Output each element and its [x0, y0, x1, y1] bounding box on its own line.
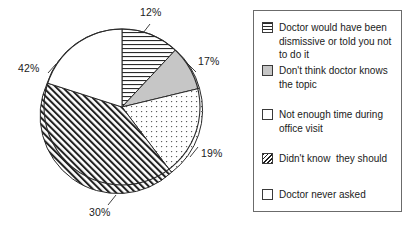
pie-label-19-percent: 19% — [201, 147, 223, 159]
plain-white-swatch-icon — [262, 189, 273, 200]
pie-label-17-percent: 17% — [198, 55, 220, 67]
pie-chart-screenshot: 12% 17% 19% 30% 42% Doctor would have be… — [0, 0, 410, 226]
pie-chart-area: 12% 17% 19% 30% 42% — [0, 0, 250, 226]
legend-item-doctor-knows-topic: Don't think doctor knows the topic — [262, 64, 401, 91]
pie-label-42-percent: 42% — [18, 62, 40, 74]
legend-item-label: Not enough time during office visit — [279, 108, 401, 135]
legend-item-never-asked: Doctor never asked — [262, 188, 401, 202]
dotted-swatch-icon — [262, 109, 273, 120]
legend-item-not-enough-time: Not enough time during office visit — [262, 108, 401, 135]
legend-item-didnt-know: Didn't know they should — [262, 152, 401, 166]
legend-item-label: Don't think doctor knows the topic — [279, 64, 401, 91]
pie-chart-svg — [0, 0, 250, 226]
chart-legend: Doctor would have been dismissive or tol… — [253, 10, 402, 212]
legend-item-label: Doctor would have been dismissive or tol… — [279, 21, 401, 62]
pie-label-30-percent: 30% — [89, 206, 111, 218]
solid-gray-swatch-icon — [262, 65, 273, 76]
diagonal-hatch-swatch-icon — [262, 153, 273, 164]
legend-item-label: Doctor never asked — [279, 188, 401, 202]
horizontal-lines-swatch-icon — [262, 22, 273, 33]
pie-label-12-percent: 12% — [140, 6, 162, 18]
legend-item-label: Didn't know they should — [279, 152, 401, 166]
legend-item-dismissive: Doctor would have been dismissive or tol… — [262, 21, 401, 62]
leader-line-30 — [108, 195, 116, 205]
leader-line-12 — [143, 24, 150, 33]
